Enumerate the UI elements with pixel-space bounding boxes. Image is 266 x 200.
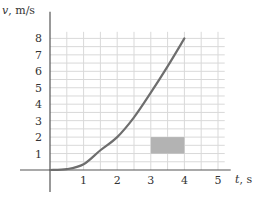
x-tick-label: 3 — [147, 174, 154, 187]
velocity-time-chart: 1234512345678 v, m/s t, s — [0, 0, 266, 200]
y-tick-label: 7 — [35, 49, 42, 62]
y-tick-label: 6 — [35, 65, 42, 78]
y-tick-label: 1 — [35, 148, 42, 161]
x-tick-label: 1 — [80, 174, 87, 187]
x-tick-label: 5 — [215, 174, 222, 187]
x-tick-label: 2 — [114, 174, 121, 187]
y-tick-label: 3 — [35, 115, 42, 128]
x-tick-label: 4 — [181, 174, 188, 187]
grid-lines — [50, 32, 225, 170]
y-axis-unit: , m/s — [8, 4, 35, 17]
shaded-area-rectangle — [151, 137, 185, 153]
x-axis-label: t, s — [235, 173, 252, 186]
y-axis-label: v, m/s — [2, 4, 35, 17]
y-tick-label: 8 — [35, 32, 42, 45]
tick-labels: 1234512345678 — [35, 32, 222, 187]
y-tick-label: 5 — [35, 82, 42, 95]
y-tick-label: 2 — [35, 131, 42, 144]
x-axis-unit: , s — [239, 173, 252, 186]
y-tick-label: 4 — [35, 98, 42, 111]
